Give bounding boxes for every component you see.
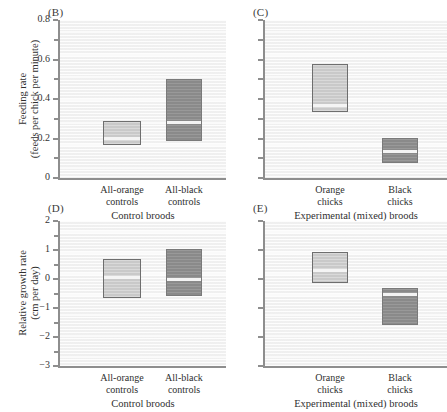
x-axis-category-label: Blackchicks: [350, 372, 447, 396]
y-axis-line: [263, 221, 265, 368]
y-axis-tick: [258, 249, 263, 251]
x-axis-line: [263, 366, 447, 368]
plot-band: [265, 294, 447, 296]
plot-band: [265, 273, 447, 275]
panel-tag: (E): [253, 202, 268, 214]
y-axis-tick: [258, 336, 263, 338]
x-axis-category-line2: chicks: [350, 384, 447, 396]
x-axis-title: Experimental (mixed) broods: [256, 398, 447, 409]
plot-band: [265, 231, 447, 233]
plot-band: [265, 335, 447, 337]
panel-e: (E)OrangechicksBlackchicksExperimental (…: [0, 0, 447, 412]
y-axis-tick: [258, 220, 263, 222]
box-orange-chicks: [312, 252, 348, 283]
y-axis-tick: [258, 278, 263, 280]
x-axis-category-line1: Black: [350, 372, 447, 384]
y-axis-tick: [258, 307, 263, 309]
median-line: [383, 293, 417, 296]
y-axis-tick: [258, 365, 263, 367]
plot-band: [265, 356, 447, 358]
figure-root: (B)00.20.40.60.8Feeding rate(feeds per c…: [0, 0, 447, 412]
box-black-chicks: [382, 288, 418, 325]
median-line: [313, 269, 347, 272]
plot-band: [265, 252, 447, 254]
plot-band: [265, 314, 447, 316]
plot-area: [265, 221, 447, 366]
